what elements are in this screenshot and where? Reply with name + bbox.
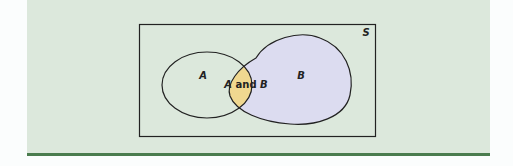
set-b-label: B	[297, 70, 305, 81]
venn-diagram: S A B A and B	[0, 0, 513, 166]
intersection-label: A and B	[223, 79, 267, 90]
universe-label: S	[362, 27, 369, 38]
set-a-label: A	[198, 70, 207, 81]
